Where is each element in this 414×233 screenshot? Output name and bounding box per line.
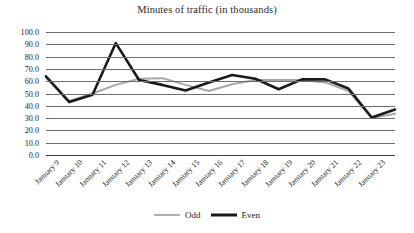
y-axis-tick-label: 0.0 <box>29 151 39 160</box>
chart-legend: OddEven <box>0 210 414 220</box>
gridline <box>46 130 395 131</box>
gridline <box>46 32 395 33</box>
gridline <box>46 44 395 45</box>
gridline <box>46 57 395 58</box>
legend-label: Odd <box>185 210 201 220</box>
y-axis-tick-label: 90.0 <box>25 40 39 49</box>
y-axis-tick-label: 20.0 <box>25 126 39 135</box>
legend-item-even[interactable]: Even <box>211 210 261 220</box>
gridline <box>46 155 395 156</box>
gridline <box>46 81 395 82</box>
y-axis-tick-label: 40.0 <box>25 101 39 110</box>
y-axis-tick-label: 50.0 <box>25 89 39 98</box>
y-axis-tick-label: 10.0 <box>25 138 39 147</box>
gridline <box>46 143 395 144</box>
plot-area <box>46 32 395 155</box>
legend-swatch-even-icon <box>211 211 237 219</box>
y-axis-tick-label: 70.0 <box>25 64 39 73</box>
legend-label: Even <box>242 210 261 220</box>
line-chart: Minutes of traffic (in thousands) 100.09… <box>0 0 414 233</box>
y-axis-tick-label: 60.0 <box>25 77 39 86</box>
gridline <box>46 106 395 107</box>
x-axis: January 9January 10January 11January 12J… <box>46 158 395 206</box>
gridline <box>46 94 395 95</box>
gridline <box>46 69 395 70</box>
chart-title: Minutes of traffic (in thousands) <box>0 4 414 15</box>
y-axis-tick-label: 30.0 <box>25 114 39 123</box>
gridline <box>46 118 395 119</box>
y-axis-tick-label: 80.0 <box>25 52 39 61</box>
y-axis-tick-label: 100.0 <box>21 28 39 37</box>
legend-item-odd[interactable]: Odd <box>154 210 201 220</box>
y-axis: 100.090.080.070.060.050.040.030.020.010.… <box>0 32 42 155</box>
legend-swatch-odd-icon <box>154 211 180 219</box>
